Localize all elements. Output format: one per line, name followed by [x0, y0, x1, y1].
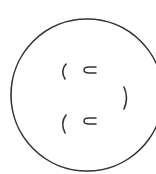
diagram-canvas — [0, 0, 156, 174]
outer-circle — [11, 19, 156, 171]
subset-bottom-icon — [84, 118, 96, 124]
open-paren-top-icon — [63, 64, 66, 79]
close-paren-right-icon — [124, 87, 127, 109]
open-paren-bottom-icon — [63, 115, 66, 133]
subset-top-icon — [84, 67, 96, 73]
diagram-svg — [0, 0, 156, 174]
